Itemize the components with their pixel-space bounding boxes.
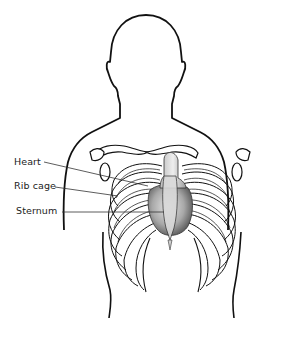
heart-illustration <box>148 153 192 251</box>
label-heart: Heart <box>14 156 41 167</box>
label-rib-cage: Rib cage <box>14 180 56 191</box>
anatomy-diagram <box>0 0 295 339</box>
label-sternum: Sternum <box>16 205 57 216</box>
